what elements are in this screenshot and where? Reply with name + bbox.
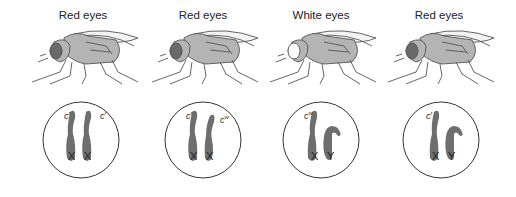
chromosome-type-label: X <box>432 150 439 162</box>
eye <box>170 43 182 59</box>
panel-4-red-male: Red eyes cr X Y <box>378 0 500 197</box>
panel-2-heterozygous-red-female: Red eyes cr cw X X <box>142 0 264 197</box>
panel-1-homozygous-red-female: Red eyes cr cr X X <box>22 0 144 197</box>
eye <box>406 43 418 59</box>
allele-label: cr <box>426 110 433 121</box>
chromosome-type-label: Y <box>327 150 334 162</box>
phenotype-label: Red eyes <box>22 9 144 21</box>
nucleus-circle <box>164 100 242 180</box>
nucleus-circle <box>42 100 120 180</box>
allele-label: cw <box>304 110 313 121</box>
panel-3-white-male: White eyes cw X Y <box>260 0 382 197</box>
fruit-fly-red-eyes-icon <box>382 24 500 88</box>
eye <box>288 43 300 59</box>
fruit-fly-white-eyes-icon <box>264 24 382 88</box>
allele-label: cw <box>220 114 229 125</box>
nucleus-circle <box>282 100 360 180</box>
phenotype-label: White eyes <box>260 9 382 21</box>
chromosome-type-label: Y <box>448 150 455 162</box>
allele-label: cr <box>64 110 71 121</box>
nucleus-circle <box>402 100 480 180</box>
chromosome-type-label: X <box>311 150 318 162</box>
chromosome-type-label: X <box>206 150 213 162</box>
chromosome-type-label: X <box>190 150 197 162</box>
chromosome-type-label: X <box>68 150 75 162</box>
allele-label: cr <box>186 110 193 121</box>
allele-label: cr <box>100 110 107 121</box>
phenotype-label: Red eyes <box>142 9 264 21</box>
eye <box>50 43 62 59</box>
fruit-fly-red-eyes-icon <box>26 24 144 88</box>
fruit-fly-red-eyes-icon <box>146 24 264 88</box>
chromosome-type-label: X <box>84 150 91 162</box>
phenotype-label: Red eyes <box>378 9 500 21</box>
